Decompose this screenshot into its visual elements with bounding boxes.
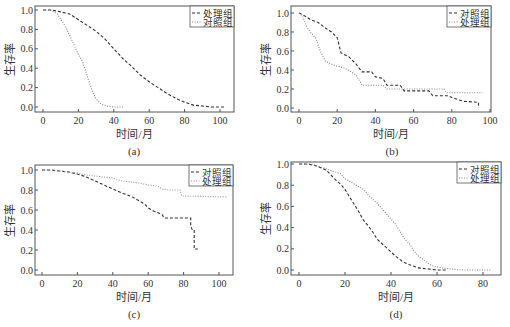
- x-axis-label: 时间/月: [373, 128, 409, 140]
- y-tick-label: 1.0: [277, 8, 290, 19]
- x-axis-label: 时间/月: [378, 291, 414, 303]
- y-tick-label: 0.2: [277, 84, 290, 95]
- y-tick-label: 0.8: [277, 27, 290, 38]
- y-tick-label: 0.2: [277, 243, 290, 254]
- x-tick-label: 100: [213, 115, 228, 126]
- x-tick-label: 20: [72, 278, 82, 289]
- panel-b: (b) 0.00.20.40.60.81.0020406080100时间/月生存…: [259, 6, 498, 158]
- y-tick-label: 0.4: [21, 225, 34, 236]
- x-tick-label: 40: [370, 115, 380, 126]
- y-axis-label: 生存率: [259, 43, 272, 76]
- panel-label-c: (c): [128, 308, 141, 321]
- panel-label-d: (d): [390, 308, 403, 321]
- legend-label: 处理组: [460, 17, 490, 28]
- y-tick-label: 0.4: [21, 63, 34, 74]
- panel-label-a: (a): [128, 145, 141, 158]
- panel-a: (a) 0.00.20.40.60.81.0020406080100时间/月生存…: [3, 5, 234, 159]
- y-tick-label: 0.0: [277, 265, 290, 276]
- y-tick-label: 1.0: [277, 159, 290, 170]
- panel-label-b: (b): [386, 145, 399, 158]
- y-tick-label: 0.6: [21, 205, 34, 216]
- y-axis-label: 生存率: [3, 43, 16, 76]
- y-tick-label: 0.0: [21, 265, 34, 276]
- y-tick-label: 0.8: [21, 185, 34, 196]
- y-tick-label: 0.4: [277, 65, 290, 76]
- y-axis-label: 生存率: [259, 202, 272, 235]
- y-tick-label: 0.4: [277, 222, 290, 233]
- legend: 处理组对照组: [190, 6, 234, 28]
- x-tick-label: 80: [478, 278, 488, 289]
- x-tick-label: 40: [386, 278, 396, 289]
- y-axis-label: 生存率: [3, 204, 16, 237]
- y-tick-label: 0.2: [21, 82, 34, 93]
- y-tick-label: 0.8: [21, 24, 34, 35]
- x-tick-label: 40: [109, 115, 119, 126]
- y-tick-label: 0.0: [21, 102, 34, 113]
- x-tick-label: 20: [73, 115, 83, 126]
- x-tick-label: 100: [483, 115, 498, 126]
- y-tick-label: 0.0: [277, 103, 290, 114]
- x-tick-label: 80: [447, 115, 457, 126]
- series-line-dotted: [43, 10, 124, 107]
- y-tick-label: 0.6: [21, 43, 34, 54]
- x-tick-label: 0: [40, 278, 45, 289]
- x-tick-label: 60: [432, 278, 442, 289]
- survival-curves-figure: (a) 0.00.20.40.60.81.0020406080100时间/月生存…: [0, 0, 510, 327]
- panel-d: (d) 0.00.20.40.60.81.0020406080时间/月生存率对照…: [259, 159, 501, 322]
- series-line-dashed: [42, 170, 198, 249]
- x-tick-label: 80: [180, 115, 190, 126]
- legend-label: 处理组: [202, 176, 232, 187]
- x-tick-label: 40: [108, 278, 118, 289]
- legend: 对照组处理组: [189, 165, 233, 187]
- legend: 对照组处理组: [447, 6, 491, 28]
- x-tick-label: 80: [179, 278, 189, 289]
- series-line-dashed: [299, 164, 446, 270]
- y-tick-label: 0.2: [21, 245, 34, 256]
- y-tick-label: 0.6: [277, 201, 290, 212]
- x-tick-label: 20: [340, 278, 350, 289]
- panel-c: (c) 0.00.20.40.60.81.0020406080100时间/月生存…: [3, 165, 233, 322]
- y-tick-label: 1.0: [21, 165, 34, 176]
- x-tick-label: 0: [41, 115, 46, 126]
- y-tick-label: 1.0: [21, 5, 34, 16]
- x-tick-label: 60: [144, 115, 154, 126]
- y-tick-label: 0.6: [277, 46, 290, 57]
- x-axis-label: 时间/月: [116, 291, 152, 303]
- x-tick-label: 0: [297, 115, 302, 126]
- legend-label: 对照组: [203, 17, 233, 28]
- x-tick-label: 60: [143, 278, 153, 289]
- x-tick-label: 0: [297, 278, 302, 289]
- legend: 对照组处理组: [457, 162, 501, 184]
- x-tick-label: 60: [409, 115, 419, 126]
- legend-label: 处理组: [470, 173, 500, 184]
- x-axis-label: 时间/月: [116, 128, 152, 140]
- x-tick-label: 20: [332, 115, 342, 126]
- x-tick-label: 100: [212, 278, 227, 289]
- y-tick-label: 0.8: [277, 180, 290, 191]
